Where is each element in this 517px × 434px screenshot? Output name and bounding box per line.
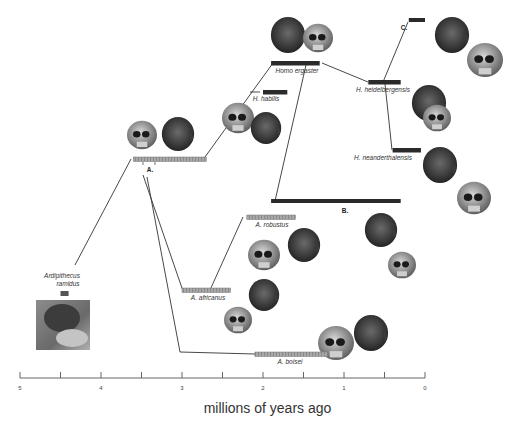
eye-socket-right xyxy=(318,34,326,41)
x-axis-title: millions of years ago xyxy=(204,400,332,416)
hominin-skull-illustration-11 xyxy=(457,182,491,214)
eye-socket-left xyxy=(474,55,483,63)
hominin-head-illustration-18 xyxy=(365,213,397,247)
hominin-skull-illustration-5 xyxy=(303,24,333,53)
axis-tick-label-3: 3 xyxy=(180,385,184,391)
axis-tick-label-5: 5 xyxy=(18,385,22,391)
bar-ramidus xyxy=(61,291,69,296)
hominin-head-illustration-13 xyxy=(288,228,320,262)
label-groupA: A. xyxy=(147,166,154,173)
eye-socket-left xyxy=(464,193,473,200)
bar-robustus xyxy=(247,215,296,220)
link-groupA-africanus xyxy=(143,175,183,291)
label-ramidus-1: ramidus xyxy=(56,280,80,287)
timeline-svg: ArdipithecusramidusA.A. africanusA. robu… xyxy=(0,0,517,434)
axis-tick-label-4: 4 xyxy=(99,385,103,391)
ramidus-fossil-photo xyxy=(36,300,90,350)
hominin-head-illustration-6 xyxy=(435,17,469,53)
eye-socket-left xyxy=(394,261,401,267)
teeth xyxy=(233,326,243,331)
bars-layer xyxy=(61,18,426,357)
eye-socket-left xyxy=(429,114,436,120)
link-africanus-robustus xyxy=(210,217,243,290)
eye-socket-right xyxy=(238,114,246,121)
axis-tick-label-1: 1 xyxy=(342,385,346,391)
eye-socket-right xyxy=(437,114,444,120)
hominin-head-illustration-14 xyxy=(249,279,279,311)
hominin-skull-illustration-12 xyxy=(248,240,280,270)
hominin-skull-illustration-15 xyxy=(224,307,252,334)
label-heidelbergensis: H. heidelbergensis xyxy=(356,86,411,94)
hominin-skull-illustration-9 xyxy=(423,105,451,132)
hominin-skull-illustration-2 xyxy=(222,103,254,133)
label-ergaster: Homo ergaster xyxy=(276,67,320,75)
eye-socket-left xyxy=(230,316,237,322)
label-africanus: A. africanus xyxy=(190,294,226,301)
link-ergaster-heidelbergensis xyxy=(322,63,368,82)
link-heidelbergensis-groupC xyxy=(383,22,408,82)
eye-socket-left xyxy=(325,338,334,346)
hominin-head-illustration-3 xyxy=(251,112,281,144)
eye-socket-right xyxy=(238,316,245,322)
eye-socket-right xyxy=(336,338,345,346)
hand-shape xyxy=(56,329,88,347)
eye-socket-left xyxy=(309,34,317,41)
eye-socket-right xyxy=(485,55,494,63)
label-neanderthalensis: H. neanderthalensis xyxy=(354,154,413,161)
eye-socket-right xyxy=(474,193,483,200)
label-robustus: A. robustus xyxy=(255,221,290,228)
label-groupB: B. xyxy=(342,207,349,214)
teeth xyxy=(432,124,442,129)
teeth xyxy=(330,351,343,357)
eye-socket-left xyxy=(228,114,236,121)
bar-boisei xyxy=(255,352,328,357)
bar-africanus xyxy=(182,288,231,293)
bar-groupC xyxy=(409,18,425,22)
bar-heidelbergensis xyxy=(368,80,400,85)
hominin-skull-illustration-0 xyxy=(127,121,157,150)
hominin-skull-illustration-19 xyxy=(388,252,416,279)
bar-ergaster xyxy=(271,61,320,66)
bar-neanderthalensis xyxy=(393,148,421,153)
hominin-timeline-figure: ArdipithecusramidusA.A. africanusA. robu… xyxy=(0,0,517,434)
links-layer xyxy=(75,22,408,354)
teeth xyxy=(258,262,269,268)
x-axis: 543210millions of years ago xyxy=(18,372,427,416)
label-groupC: C. xyxy=(401,24,408,31)
teeth xyxy=(232,125,243,131)
hominin-head-illustration-1 xyxy=(162,117,194,151)
teeth xyxy=(137,142,148,147)
label-ramidus-0: Ardipithecus xyxy=(43,272,81,280)
axis-tick-label-2: 2 xyxy=(261,385,265,391)
axis-tick-label-0: 0 xyxy=(423,385,427,391)
eye-socket-right xyxy=(402,261,409,267)
eye-socket-right xyxy=(264,251,272,258)
hominin-head-illustration-10 xyxy=(423,147,457,183)
label-habilis: H. habilis xyxy=(253,95,280,102)
label-boisei: A. boisei xyxy=(277,358,303,365)
teeth xyxy=(397,271,407,276)
eye-socket-right xyxy=(142,131,150,138)
bar-habilis xyxy=(263,90,287,95)
eye-socket-left xyxy=(133,131,141,138)
link-ramidus-groupA xyxy=(75,159,131,265)
teeth xyxy=(313,45,324,50)
hominin-head-illustration-17 xyxy=(354,315,388,351)
hominin-skull-illustration-7 xyxy=(467,43,503,77)
fossil-shape xyxy=(44,304,80,332)
eye-socket-left xyxy=(254,251,262,258)
bar-groupB xyxy=(271,199,401,203)
teeth xyxy=(468,206,480,212)
teeth xyxy=(479,68,492,74)
link-heidelbergensis-neanderthalensis xyxy=(385,84,392,150)
bar-groupA xyxy=(133,157,206,162)
hominin-head-illustration-4 xyxy=(271,17,305,53)
